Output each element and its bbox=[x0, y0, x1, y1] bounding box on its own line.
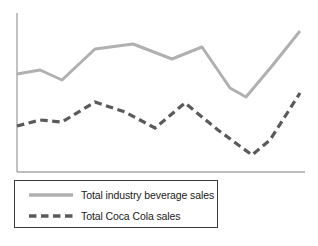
chart-container: Total industry beverage sales Total Coca… bbox=[0, 0, 318, 246]
legend-label-series-2: Total Coca Cola sales bbox=[81, 210, 180, 222]
legend-label-series-1: Total industry beverage sales bbox=[81, 189, 214, 201]
legend-item-total-coca-cola-sales: Total Coca Cola sales bbox=[15, 205, 217, 227]
solid-line-swatch-icon bbox=[29, 189, 73, 201]
chart-legend: Total industry beverage sales Total Coca… bbox=[14, 180, 218, 228]
dashed-line-swatch-icon bbox=[29, 210, 73, 222]
legend-item-total-industry-beverage-sales: Total industry beverage sales bbox=[15, 184, 217, 206]
